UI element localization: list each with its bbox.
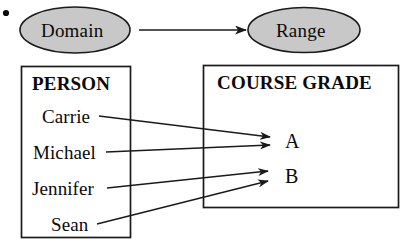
person-set-title: PERSON (32, 74, 110, 93)
mapping-arrow-carrie-to-a (99, 116, 270, 137)
grade-member-b: B (285, 166, 298, 186)
person-member-carrie: Carrie (42, 107, 90, 126)
person-member-sean: Sean (51, 215, 88, 234)
grade-set-title: COURSE GRADE (217, 73, 372, 92)
grade-member-a: A (285, 131, 299, 151)
person-member-michael: Michael (33, 143, 96, 162)
domain-node-label: Domain (41, 21, 103, 40)
relation-diagram-figure: Domain Range PERSON Carrie Michael Jenni… (0, 0, 411, 248)
range-node-label: Range (276, 21, 326, 40)
bullet-point-icon (3, 10, 9, 16)
person-member-jennifer: Jennifer (32, 179, 94, 198)
mapping-arrow-sean-to-b (97, 181, 268, 224)
